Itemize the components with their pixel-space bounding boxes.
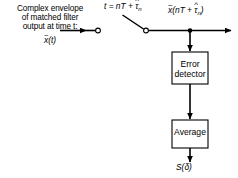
output-tau-wrap: ^τ (194, 6, 197, 15)
output-symbol-base-wrap: ~x (168, 6, 172, 15)
output-arg-open: (nT + (172, 5, 194, 15)
switch-label-lhs: t = nT + (104, 1, 135, 11)
result-symbol-label: S(δ) (176, 163, 192, 172)
switch-label-subscript: n (138, 6, 141, 12)
error-detector-line-2: detector (174, 69, 205, 79)
input-caption-line-3: output at time t: (6, 22, 94, 31)
switch-lever-icon[interactable] (123, 15, 144, 29)
average-label: Average (172, 128, 208, 138)
block-diagram-canvas: Complex envelope of matched filter outpu… (0, 0, 238, 178)
input-symbol-arg: (t) (48, 35, 56, 45)
sampled-output-label: ~x(nT + ^τn) (168, 6, 204, 16)
average-line-1: Average (174, 127, 206, 137)
error-detector-line-1: Error (180, 59, 199, 69)
output-symbol-tilde: ~ (168, 2, 172, 10)
result-arg-close: ) (189, 162, 192, 172)
input-caption-line-1: Complex envelope (6, 4, 94, 13)
switch-left-contact-icon (96, 28, 101, 33)
input-signal-symbol: ~x(t) (6, 36, 94, 45)
input-symbol-tilde: ~ (44, 32, 48, 40)
switch-right-contact-icon (144, 28, 149, 33)
switch-timing-label: t = nT + ^τn (104, 2, 142, 12)
input-symbol-base-wrap: ~x (44, 36, 48, 45)
switch-label-tau-wrap: ^τ (135, 2, 138, 11)
output-hat: ^ (194, 1, 197, 9)
switch-label-hat: ^ (135, 0, 138, 5)
output-arg-close: ) (201, 5, 204, 15)
input-caption: Complex envelope of matched filter outpu… (6, 4, 94, 32)
input-caption-line-2: of matched filter (6, 13, 94, 22)
error-detector-label: Error detector (172, 60, 208, 80)
